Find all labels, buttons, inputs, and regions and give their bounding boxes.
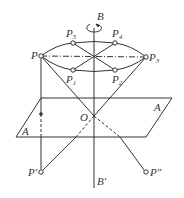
rotation-reflection-diagram: B P P5 P4 P3 P1 P2 O A A P' P" B': [0, 0, 184, 198]
point-p: [39, 54, 43, 58]
point-p4: [113, 41, 117, 45]
svg-text:P2: P2: [111, 73, 123, 87]
point-p-double-prime: [144, 170, 148, 174]
point-p-prime: [39, 170, 43, 174]
label-a-right: A: [153, 101, 161, 113]
svg-text:P1: P1: [65, 73, 76, 87]
label-b-prime: B': [97, 175, 107, 187]
svg-text:P5: P5: [65, 27, 77, 41]
point-p2: [113, 68, 117, 72]
point-p1: [71, 68, 75, 72]
label-p-double-prime: P": [149, 166, 162, 178]
label-a-left: A: [21, 125, 29, 137]
svg-text:P4: P4: [111, 27, 123, 41]
label-b: B: [97, 10, 104, 22]
point-p5: [71, 41, 75, 45]
point-intersection: [39, 112, 43, 116]
label-p-prime: P': [27, 166, 38, 178]
point-p3: [144, 55, 148, 59]
label-p: P: [30, 49, 38, 61]
label-o: O: [80, 111, 88, 123]
svg-text:P3: P3: [148, 51, 160, 65]
